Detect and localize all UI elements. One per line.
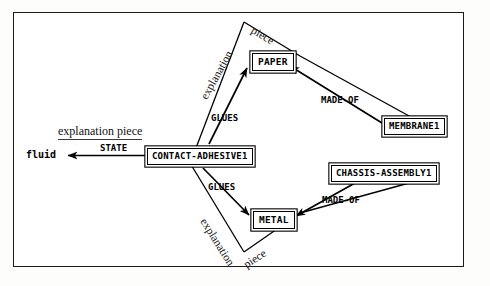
relation-label-madeof-down: MADE-OF bbox=[322, 196, 360, 205]
node-metal-label: METAL bbox=[259, 215, 289, 225]
node-chassis-assembly1[interactable]: CHASSIS-ASSEMBLY1 bbox=[331, 165, 437, 182]
node-contact-adhesive1-label: CONTACT-ADHESIVE1 bbox=[152, 152, 248, 161]
node-paper-label: PAPER bbox=[258, 57, 288, 67]
node-fluid-label: fluid bbox=[26, 149, 56, 160]
relation-label-glues-down: GLUES bbox=[208, 183, 235, 192]
figure-canvas: PAPER MEMBRANE1 CONTACT-ADHESIVE1 CHASSI… bbox=[0, 0, 490, 286]
node-chassis-assembly1-label: CHASSIS-ASSEMBLY1 bbox=[336, 169, 432, 178]
bracket-membrane bbox=[300, 56, 420, 122]
figure-caption bbox=[0, 274, 490, 286]
relation-label-madeof-up: MADE-OF bbox=[321, 96, 359, 105]
node-paper[interactable]: PAPER bbox=[252, 53, 294, 71]
node-fluid[interactable]: fluid bbox=[26, 150, 56, 160]
node-membrane1[interactable]: MEMBRANE1 bbox=[384, 118, 445, 135]
relation-label-glues-up: GLUES bbox=[211, 114, 238, 123]
node-metal[interactable]: METAL bbox=[253, 211, 295, 229]
node-contact-adhesive1[interactable]: CONTACT-ADHESIVE1 bbox=[147, 148, 253, 165]
relation-label-state: STATE bbox=[100, 144, 127, 153]
bracket-chassis bbox=[300, 180, 420, 213]
annotation-explanation-piece-state: explanation piece bbox=[58, 125, 142, 140]
edge-layer bbox=[0, 0, 490, 286]
node-membrane1-label: MEMBRANE1 bbox=[389, 122, 440, 131]
